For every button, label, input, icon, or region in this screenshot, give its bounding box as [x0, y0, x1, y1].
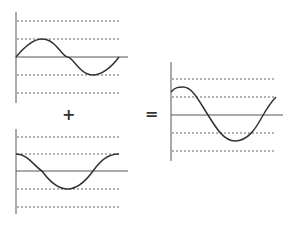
gridlines: [17, 137, 119, 207]
plus-operator: +: [62, 107, 75, 123]
panel-wave-sum: [171, 62, 283, 161]
panel-wave-a: [16, 12, 128, 103]
panel-wave-b: [16, 129, 128, 214]
equals-operator: =: [145, 106, 158, 122]
